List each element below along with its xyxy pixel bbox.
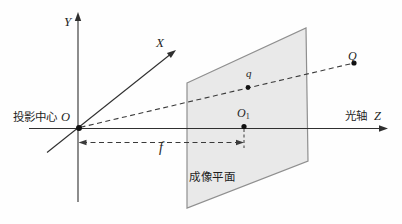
image-point-label: q (246, 68, 252, 79)
y-axis-label: Y (64, 15, 71, 28)
origin-point (76, 125, 82, 131)
projection-center-label: 投影中心O (13, 111, 70, 124)
x-axis-line (47, 54, 171, 152)
projection-center-text: 投影中心 (13, 111, 57, 123)
z-axis-label: Z (374, 109, 381, 123)
optical-axis-label: 光轴Z (345, 110, 381, 123)
focal-length-label: f (159, 141, 163, 155)
pinhole-projection-diagram: Y X 光轴Z 投影中心O O1 q Q f 成像平面 (0, 0, 402, 224)
image-plane-label: 成像平面 (189, 172, 235, 184)
principal-point-base: O (237, 106, 246, 120)
y-axis-arrowhead-icon (75, 12, 81, 21)
principal-point-label: O1 (237, 107, 250, 121)
image-point (246, 85, 251, 90)
scene-point-label: Q (348, 50, 357, 62)
principal-point (241, 124, 246, 129)
focal-length-left-arrowhead-icon (79, 140, 87, 146)
z-axis-arrowhead-icon (379, 125, 388, 131)
optical-axis-text: 光轴 (345, 110, 367, 122)
x-axis-arrowhead-icon (167, 50, 176, 58)
x-axis-label: X (156, 36, 164, 49)
principal-point-subscript: 1 (246, 112, 250, 121)
origin-label: O (61, 110, 70, 124)
